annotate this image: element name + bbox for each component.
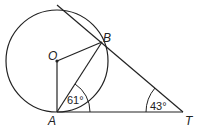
angle-label-t: 43° [150,100,167,112]
angle-label-a: 61° [67,94,84,106]
label-a: A [47,114,56,128]
geometry-diagram: O B A T 61° 43° [0,0,200,129]
label-o: O [48,49,57,63]
label-t: T [185,114,194,128]
label-b: B [103,31,111,45]
